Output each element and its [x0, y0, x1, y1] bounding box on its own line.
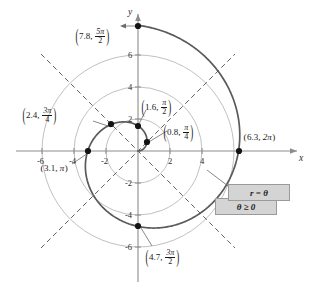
leader-callout: [207, 170, 228, 186]
x-tick-label--2: -2: [101, 157, 108, 166]
point-label-r: 3.1: [44, 164, 55, 173]
theta-fraction: π 4: [183, 124, 189, 142]
comma: ,: [37, 111, 42, 120]
paren-close: ): [168, 99, 171, 117]
theta-fraction: 3π 4: [42, 107, 52, 125]
y-tick-label-4: 4: [128, 83, 132, 92]
x-axis-label: x: [299, 154, 303, 164]
comma: ,: [178, 128, 183, 137]
paren-open: (: [23, 107, 26, 125]
leader-4-7: [141, 228, 152, 246]
y-axis-label: y: [128, 8, 132, 18]
point-label-r: 4.7: [149, 253, 160, 262]
leader-7-8-arrowhead: [120, 24, 126, 29]
y-tick-label--2: -2: [125, 179, 132, 188]
point-label-theta: π: [60, 164, 65, 173]
fraction-denominator: 2: [167, 258, 173, 266]
fraction-denominator: 2: [161, 108, 167, 116]
fraction-numerator: π: [161, 99, 167, 107]
y-tick-label--6: -6: [125, 243, 132, 252]
fraction-numerator: π: [183, 124, 189, 132]
fraction-numerator: 3π: [165, 249, 175, 257]
x-tick-label--4: -4: [69, 157, 76, 166]
polar-graph-figure: [0, 0, 315, 289]
paren-close: ): [190, 124, 193, 142]
point-6-3: [236, 148, 242, 154]
point-label-4-7: ( 4.7 , 3π 2 ): [145, 249, 180, 267]
paren-open: (: [146, 249, 149, 267]
point-label-0-8: ( 0.8 , π 4 ): [163, 124, 194, 142]
point-label-1-6: ( 1.6 , π 2 ): [141, 99, 172, 117]
paren-close: ): [106, 28, 109, 46]
theta-fraction: π 2: [161, 99, 167, 117]
point-label-7-8: ( 7.8 , 5π 2 ): [75, 28, 110, 46]
callout-equation: r = θ: [228, 184, 290, 201]
comma: ,: [160, 253, 165, 262]
paren-open: (: [164, 124, 167, 142]
y-tick-label-2: 2: [128, 115, 132, 124]
y-axis-arrow: [135, 14, 141, 21]
axes: [16, 14, 297, 282]
point-4-7: [135, 223, 141, 229]
point-label-r: 1.6: [145, 103, 156, 112]
fraction-denominator: 4: [183, 133, 189, 141]
x-axis-arrow: [290, 148, 297, 154]
paren-close: ): [65, 164, 68, 173]
paren-close: ): [53, 107, 56, 125]
y-tick-label--4: -4: [125, 211, 132, 220]
comma: ,: [156, 103, 161, 112]
fraction-numerator: 5π: [95, 28, 105, 36]
point-label-r: 2.4: [26, 111, 37, 120]
comma: ,: [90, 32, 95, 41]
point-1-6: [135, 123, 141, 129]
point-3-1: [85, 148, 91, 154]
y-tick-label-6: 6: [128, 51, 132, 60]
point-label-r: 0.8: [167, 128, 178, 137]
paren-open: (: [142, 99, 145, 117]
point-2-4: [108, 121, 114, 127]
point-label-6-3: ( 6.3 , 2π ): [243, 133, 276, 142]
paren-close: ): [272, 133, 275, 142]
point-label-2-4: ( 2.4 , 3π 4 ): [22, 107, 57, 125]
paren-close: ): [176, 249, 179, 267]
fraction-denominator: 4: [44, 116, 50, 124]
fraction-denominator: 2: [97, 37, 103, 45]
point-0-8: [144, 139, 150, 145]
paren-open: (: [76, 28, 79, 46]
x-tick-label-2: 2: [168, 157, 172, 166]
point-7-8: [135, 23, 141, 29]
point-label-r: 7.8: [79, 32, 90, 41]
fraction-numerator: 3π: [42, 107, 52, 115]
x-tick-label-4: 4: [200, 157, 204, 166]
point-label-3-1: ( 3.1 , π ): [40, 164, 68, 173]
theta-fraction: 3π 2: [165, 249, 175, 267]
point-label-theta: 2π: [263, 133, 272, 142]
point-label-r: 6.3: [247, 133, 258, 142]
theta-fraction: 5π 2: [95, 28, 105, 46]
